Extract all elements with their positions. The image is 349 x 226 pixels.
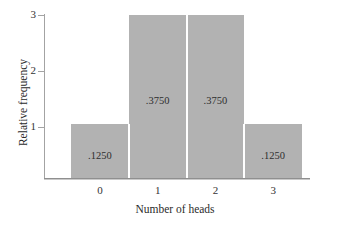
bar-value-label-2: .3750 bbox=[185, 95, 245, 106]
x-tick-label-0: 0 bbox=[90, 184, 110, 196]
y-axis-title: Relative frequency bbox=[17, 28, 30, 178]
bar-value-label-1: .3750 bbox=[128, 95, 188, 106]
x-axis-title: Number of heads bbox=[44, 203, 306, 216]
x-axis-line bbox=[44, 178, 310, 179]
x-tick-label-1: 1 bbox=[148, 184, 168, 196]
bars-layer bbox=[0, 0, 349, 226]
bar-value-label-0: .1250 bbox=[70, 150, 130, 161]
bar-value-label-3: .1250 bbox=[243, 150, 303, 161]
relative-frequency-bar-chart: 3 2 1 .1250 .3750 .3750 .1250 0 1 2 3 Nu… bbox=[0, 0, 349, 226]
x-tick-label-2: 2 bbox=[205, 184, 225, 196]
x-tick-label-3: 3 bbox=[263, 184, 283, 196]
